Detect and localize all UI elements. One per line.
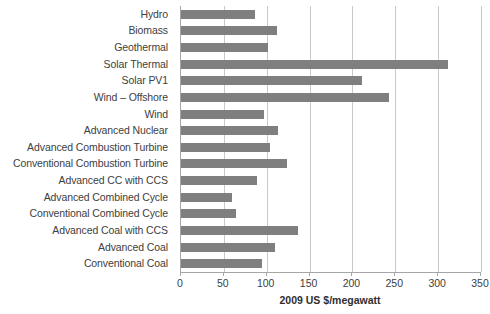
- bar-row: [181, 255, 481, 272]
- axis-tick: [266, 272, 267, 276]
- bar-row: [181, 172, 481, 189]
- axis-tick-label: 200: [343, 277, 361, 289]
- bar-row: [181, 222, 481, 239]
- axis-tick-label: 250: [386, 277, 404, 289]
- x-axis-tick-labels: 050100150200250300350: [180, 277, 480, 293]
- bar-row: [181, 156, 481, 173]
- category-label: Wind – Offshore: [0, 89, 174, 106]
- category-label: Geothermal: [0, 39, 174, 56]
- category-label: Advanced Coal: [0, 239, 174, 256]
- axis-tick-label: 350: [471, 277, 489, 289]
- plot-area: [180, 6, 481, 273]
- bar: [181, 143, 270, 152]
- bar-row: [181, 122, 481, 139]
- bar-row: [181, 189, 481, 206]
- axis-tick-label: 150: [300, 277, 318, 289]
- axis-tick: [394, 272, 395, 276]
- category-label: Conventional Combined Cycle: [0, 206, 174, 223]
- category-label: Advanced CC with CCS: [0, 172, 174, 189]
- bar-row: [181, 39, 481, 56]
- category-label: Solar PV1: [0, 73, 174, 90]
- axis-tick: [309, 272, 310, 276]
- axis-tick: [480, 272, 481, 276]
- bar-row: [181, 73, 481, 90]
- category-label: Advanced Nuclear: [0, 122, 174, 139]
- bar: [181, 226, 298, 235]
- bar: [181, 43, 268, 52]
- bar-row: [181, 239, 481, 256]
- axis-tick: [351, 272, 352, 276]
- bar: [181, 126, 278, 135]
- bar-row: [181, 6, 481, 23]
- bar: [181, 176, 257, 185]
- category-axis: HydroBiomassGeothermalSolar ThermalSolar…: [0, 6, 174, 272]
- bar-row: [181, 56, 481, 73]
- bar: [181, 259, 262, 268]
- category-label: Hydro: [0, 6, 174, 23]
- bar-series: [181, 6, 481, 272]
- category-label: Advanced Coal with CCS: [0, 222, 174, 239]
- bar-chart: HydroBiomassGeothermalSolar ThermalSolar…: [0, 0, 490, 314]
- axis-tick-label: 100: [257, 277, 275, 289]
- category-label: Conventional Coal: [0, 255, 174, 272]
- axis-tick-label: 50: [217, 277, 229, 289]
- axis-tick: [180, 272, 181, 276]
- x-axis-title: 2009 US $/megawatt: [180, 294, 480, 306]
- category-label: Biomass: [0, 23, 174, 40]
- bar: [181, 193, 232, 202]
- bar: [181, 159, 287, 168]
- bar-row: [181, 206, 481, 223]
- bar: [181, 76, 362, 85]
- axis-tick-label: 300: [428, 277, 446, 289]
- axis-tick: [437, 272, 438, 276]
- category-label: Advanced Combustion Turbine: [0, 139, 174, 156]
- category-label: Wind: [0, 106, 174, 123]
- axis-tick: [223, 272, 224, 276]
- bar: [181, 243, 275, 252]
- bar: [181, 93, 389, 102]
- gridline: [481, 6, 482, 272]
- bar: [181, 10, 255, 19]
- axis-tick-label: 0: [177, 277, 183, 289]
- bar-row: [181, 139, 481, 156]
- category-label: Advanced Combined Cycle: [0, 189, 174, 206]
- bar: [181, 60, 448, 69]
- bar: [181, 26, 277, 35]
- bar-row: [181, 23, 481, 40]
- bar-row: [181, 106, 481, 123]
- bar: [181, 110, 264, 119]
- category-label: Solar Thermal: [0, 56, 174, 73]
- bar: [181, 209, 236, 218]
- bar-row: [181, 89, 481, 106]
- category-label: Conventional Combustion Turbine: [0, 156, 174, 173]
